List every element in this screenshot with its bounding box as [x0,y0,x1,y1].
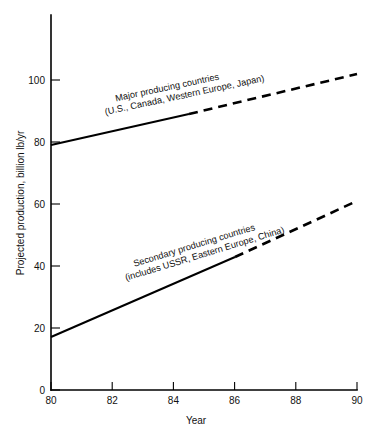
y-tick-label-20: 20 [34,323,46,334]
x-tick-label-80: 80 [45,395,57,406]
chart-figure: 0 20 40 60 80 100 80 82 84 86 88 90 Year… [0,0,378,442]
y-tick-label-80: 80 [34,137,46,148]
x-axis-tick-labels: 80 82 84 86 88 90 [45,395,363,406]
chart-svg: 0 20 40 60 80 100 80 82 84 86 88 90 Year… [0,0,378,442]
x-tick-label-88: 88 [290,395,302,406]
y-axis-ticks [51,80,60,390]
y-axis-tick-labels: 0 20 40 60 80 100 [28,75,45,396]
y-tick-label-60: 60 [34,199,46,210]
x-tick-label-90: 90 [351,395,363,406]
x-tick-label-84: 84 [168,395,180,406]
y-tick-label-100: 100 [28,75,45,86]
x-axis-ticks [51,382,357,390]
x-tick-label-82: 82 [107,395,119,406]
y-tick-label-40: 40 [34,261,46,272]
series-secondary-producing-countries [51,201,357,337]
x-tick-label-86: 86 [229,395,241,406]
series-major-solid-segment [51,114,189,145]
x-axis-title: Year [186,415,207,426]
annotation-secondary-producing-countries: Secondary producing countries (includes … [121,214,286,283]
y-axis-title: Projected production, billion lb/yr [15,130,26,275]
annotation-major-producing-countries: Major producing countries (U.S., Canada,… [102,62,266,116]
